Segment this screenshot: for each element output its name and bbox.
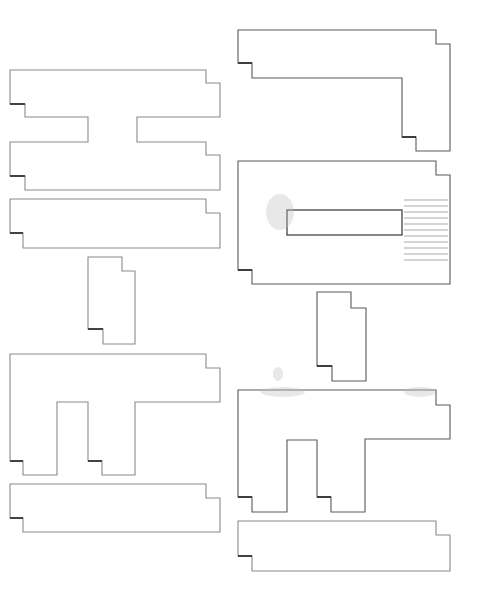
block-outline: [317, 292, 366, 381]
right-small-block: [317, 292, 366, 381]
left-small-block: [88, 257, 135, 344]
shapes-layer: [10, 30, 450, 571]
right-pi-shape: [238, 390, 450, 512]
l-shape-outline: [238, 30, 450, 151]
bar-outline: [238, 521, 450, 571]
left-pi-shape: [10, 354, 220, 475]
pi-shape-outline: [10, 354, 220, 475]
block-outline: [88, 257, 135, 344]
bar-outline: [10, 484, 220, 532]
inner-rectangle: [287, 210, 402, 235]
scan-smudge: [273, 367, 283, 381]
pi-shape-outline: [238, 390, 450, 512]
scan-smudge: [266, 194, 294, 230]
left-long-bar: [10, 199, 220, 248]
bar-outline: [10, 199, 220, 248]
left-h-shape: [10, 70, 220, 190]
right-l-shape: [238, 30, 450, 151]
h-shape-outline: [10, 70, 220, 190]
left-bottom-bar: [10, 484, 220, 532]
scan-smudge: [404, 387, 436, 397]
diagram-canvas: [0, 0, 478, 599]
scan-smudge: [261, 387, 305, 397]
right-bottom-bar: [238, 521, 450, 571]
